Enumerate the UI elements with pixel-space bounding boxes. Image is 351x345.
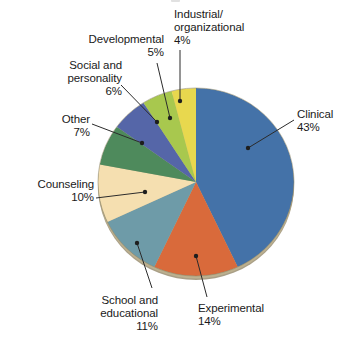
slice-label-social-and-personality: Social and personality 6%	[22, 59, 122, 99]
slice-label-school-and-educational: School and educational 11%	[56, 294, 158, 334]
slice-label-industrial-organizational: Industrial/ organizational 4%	[174, 8, 266, 48]
slice-label-other: Other 7%	[22, 113, 90, 139]
slice-label-counseling: Counseling 10%	[8, 178, 94, 204]
slice-label-clinical: Clinical 43%	[297, 108, 349, 134]
slice-label-developmental: Developmental 5%	[58, 33, 164, 59]
slice-label-experimental: Experimental 14%	[198, 302, 308, 328]
pie-chart-figure: Industrial/ organizational 4% Developmen…	[0, 0, 351, 345]
pie-chart-svg	[0, 0, 351, 345]
pie-slices	[98, 88, 294, 276]
